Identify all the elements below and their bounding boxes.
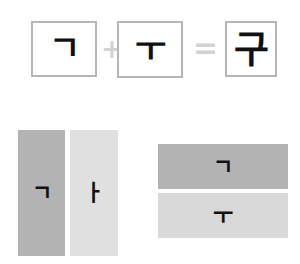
left-right-composition-diagram: ㄱ ㅏ <box>18 130 120 256</box>
jamo-equation: ㄱ + ㅜ = 구 <box>0 0 300 100</box>
giyeok-consonant-glyph: ㄱ <box>213 156 233 178</box>
left-right-medial-block: ㅏ <box>70 130 118 256</box>
left-right-initial-block: ㄱ <box>18 130 65 256</box>
u-vowel-glyph: ㅜ <box>135 32 166 66</box>
u-vowel-glyph: ㅜ <box>213 205 233 227</box>
vowel-box: ㅜ <box>117 21 183 78</box>
consonant-box: ㄱ <box>31 21 97 77</box>
composition-layout-diagrams: ㄱ ㅏ ㄱ ㅜ <box>0 100 300 264</box>
giyeok-consonant-glyph: ㄱ <box>32 182 52 204</box>
top-bottom-medial-block: ㅜ <box>158 193 288 238</box>
top-bottom-composition-diagram: ㄱ ㅜ <box>158 144 288 240</box>
giyeok-consonant-glyph: ㄱ <box>49 31 80 65</box>
a-vowel-glyph: ㅏ <box>84 182 104 204</box>
equals-operator: = <box>193 33 218 63</box>
top-bottom-initial-block: ㄱ <box>158 144 288 189</box>
syllable-box: 구 <box>225 21 277 77</box>
gu-syllable-glyph: 구 <box>234 30 269 68</box>
